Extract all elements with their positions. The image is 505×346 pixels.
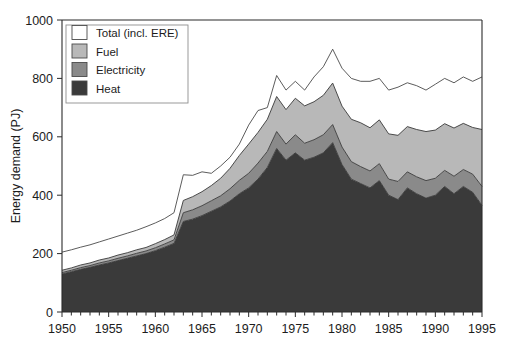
x-tick-label: 1955 bbox=[95, 322, 123, 336]
legend-label: Fuel bbox=[96, 46, 118, 58]
x-tick-label: 1975 bbox=[281, 322, 309, 336]
energy-demand-stacked-area-chart: 02004006008001000 1950195519601965197019… bbox=[0, 0, 505, 346]
legend-label: Electricity bbox=[96, 64, 145, 76]
y-tick-label: 600 bbox=[32, 130, 53, 144]
x-tick-label: 1965 bbox=[188, 322, 216, 336]
x-tick-label: 1980 bbox=[328, 322, 356, 336]
y-tick-label: 200 bbox=[32, 247, 53, 261]
legend-swatch bbox=[72, 26, 87, 40]
legend-swatch bbox=[72, 81, 87, 95]
legend-swatch bbox=[72, 44, 87, 58]
y-tick-label: 1000 bbox=[25, 14, 53, 28]
x-tick-label: 1985 bbox=[375, 322, 403, 336]
legend-label: Heat bbox=[96, 83, 121, 95]
x-tick-label: 1950 bbox=[48, 322, 76, 336]
y-tick-label: 800 bbox=[32, 72, 53, 86]
x-axis-ticks: 1950195519601965197019751980198519901995 bbox=[48, 312, 496, 336]
chart-legend: Total (incl. ERE)FuelElectricityHeat bbox=[66, 25, 188, 103]
legend-label: Total (incl. ERE) bbox=[96, 27, 179, 39]
x-tick-label: 1990 bbox=[421, 322, 449, 336]
legend-swatch bbox=[72, 63, 87, 77]
x-tick-label: 1970 bbox=[235, 322, 263, 336]
x-tick-label: 1995 bbox=[468, 322, 496, 336]
y-axis-ticks: 02004006008001000 bbox=[25, 14, 62, 320]
chart-figure: 02004006008001000 1950195519601965197019… bbox=[0, 0, 505, 346]
x-tick-label: 1960 bbox=[141, 322, 169, 336]
y-tick-label: 0 bbox=[46, 306, 53, 320]
y-tick-label: 400 bbox=[32, 189, 53, 203]
y-axis-title: Energy demand (PJ) bbox=[9, 109, 23, 224]
